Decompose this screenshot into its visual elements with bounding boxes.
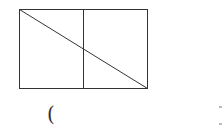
rectangle-diagram xyxy=(0,0,224,132)
answer-open-paren: ( xyxy=(47,104,55,124)
margin-mark xyxy=(219,123,222,125)
margin-mark xyxy=(219,106,222,108)
